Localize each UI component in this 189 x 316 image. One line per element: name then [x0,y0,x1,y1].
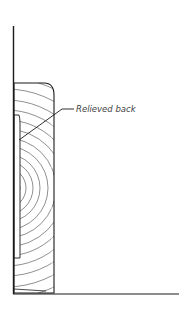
bottom-chamfer [14,289,46,291]
baseboard-section-diagram [0,0,189,316]
relieved-back-label: Relieved back [76,104,136,114]
leader-line [19,109,74,140]
